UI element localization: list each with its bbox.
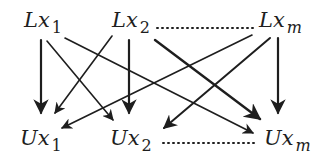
node-ux1: Ux1 (20, 128, 62, 149)
node-lxm-sub: m (287, 18, 302, 37)
node-lx1: Lx1 (24, 10, 62, 31)
node-lx2: Lx2 (112, 10, 150, 31)
bipartite-diagram: Lx1 Lx2 Lxm Ux1 Ux2 Uxm (0, 0, 322, 159)
node-ux1-base: Ux (20, 126, 50, 150)
node-uxm: Uxm (264, 128, 311, 149)
node-ux1-sub: 1 (52, 136, 62, 155)
edge-lx1-uxm (65, 38, 253, 133)
edge-lx2-uxm (155, 40, 260, 119)
node-lx2-base: Lx (112, 8, 138, 32)
node-ux2-sub: 2 (142, 136, 152, 155)
node-ux2: Ux2 (110, 128, 152, 149)
node-lx2-sub: 2 (140, 18, 150, 37)
edge-lxm-ux1 (62, 35, 252, 128)
node-lxm: Lxm (259, 10, 302, 31)
node-lx1-base: Lx (24, 8, 50, 32)
node-lx1-sub: 1 (52, 18, 62, 37)
node-uxm-base: Ux (264, 126, 294, 150)
node-lxm-base: Lx (259, 8, 285, 32)
node-uxm-sub: m (296, 136, 311, 155)
node-ux2-base: Ux (110, 126, 140, 150)
